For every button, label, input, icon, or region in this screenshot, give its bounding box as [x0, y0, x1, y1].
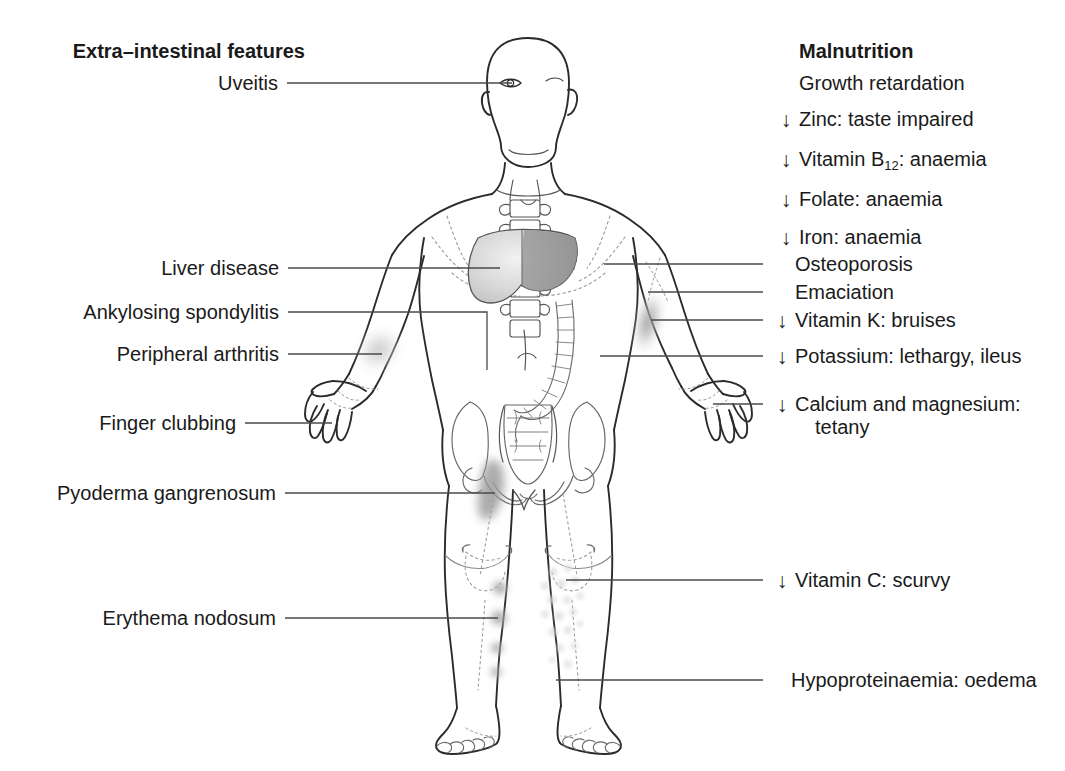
label-zinc: ↓ Zinc: taste impaired: [779, 108, 974, 131]
vitamin-b12-text: Vitamin B12: anaemia: [799, 148, 987, 173]
label-iron: ↓ Iron: anaemia: [779, 226, 921, 249]
down-arrow-icon: ↓: [775, 393, 789, 416]
label-erythema-nodosum: Erythema nodosum: [0, 607, 276, 629]
shade-petechiae: [540, 563, 585, 669]
label-finger-clubbing: Finger clubbing: [0, 412, 236, 434]
label-liver-disease: Liver disease: [0, 257, 279, 279]
label-vitamin-c: ↓ Vitamin C: scurvy: [775, 569, 950, 592]
label-calcium-magnesium: ↓ Calcium and magnesium: tetany: [775, 393, 1021, 439]
section-title-extra-intestinal: Extra–intestinal features: [0, 40, 305, 62]
label-vitamin-k: ↓ Vitamin K: bruises: [775, 309, 956, 332]
down-arrow-icon: ↓: [779, 226, 793, 249]
down-arrow-icon: ↓: [775, 569, 789, 592]
label-uveitis: Uveitis: [0, 72, 278, 94]
diagram-canvas: Extra–intestinal features Uveitis Liver …: [0, 0, 1065, 771]
liver: [468, 229, 577, 303]
label-growth-retardation: ↓ Growth retardation: [779, 72, 965, 95]
colon: [514, 300, 574, 442]
head-outline: [482, 38, 577, 167]
label-ankylosing-spondylitis: Ankylosing spondylitis: [0, 301, 279, 323]
legs: [445, 486, 613, 708]
label-potassium: ↓ Potassium: lethargy, ileus: [775, 345, 1021, 368]
shade-thigh-lesion: [478, 460, 504, 520]
down-arrow-icon: ↓: [779, 148, 793, 171]
down-arrow-icon: ↓: [775, 309, 789, 332]
section-title-malnutrition: Malnutrition: [799, 40, 913, 62]
label-pyoderma-gangrenosum: Pyoderma gangrenosum: [0, 482, 276, 504]
down-arrow-icon: ↓: [779, 188, 793, 211]
down-arrow-icon: ↓: [775, 345, 789, 368]
lesion-shading: [345, 286, 670, 680]
pelvis: [452, 402, 605, 505]
calcium-magnesium-text: Calcium and magnesium: tetany: [795, 393, 1021, 439]
calcium-magnesium-line2: tetany: [795, 416, 1021, 439]
feet: [436, 706, 621, 754]
label-emaciation: ↓ Emaciation: [775, 281, 894, 304]
shade-shin-nodules: [486, 577, 512, 680]
label-vitamin-b12: ↓ Vitamin B12: anaemia: [779, 148, 987, 173]
down-arrow-icon: ↓: [779, 108, 793, 131]
label-osteoporosis: ↓ Osteoporosis: [775, 253, 913, 276]
label-folate: ↓ Folate: anaemia: [779, 188, 942, 211]
label-hypoproteinaemia: ↓ Hypoproteinaemia: oedema: [771, 669, 1037, 692]
label-peripheral-arthritis: Peripheral arthritis: [0, 343, 279, 365]
neck: [492, 163, 565, 205]
